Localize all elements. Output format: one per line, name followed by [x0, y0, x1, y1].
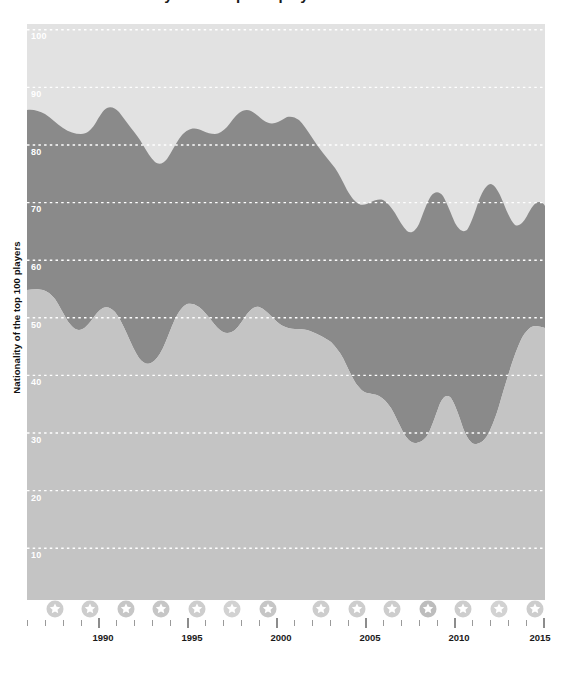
- stacked-area-chart: Nationality of the top 100 players over …: [0, 0, 570, 677]
- star-circle-icon[interactable]: [152, 600, 170, 618]
- plot-area: [27, 24, 545, 600]
- x-tick-2001: [294, 620, 295, 626]
- x-axis-label-2000: 2000: [270, 632, 291, 643]
- x-tick-2011: [472, 620, 473, 626]
- x-tick-2009: [437, 620, 438, 626]
- x-axis-label-1990: 1990: [92, 632, 113, 643]
- chart-title-clipped: Nationality of the top 100 players over …: [0, 0, 570, 14]
- star-circle-icon[interactable]: [223, 600, 241, 618]
- x-tick-1999: [259, 620, 260, 626]
- star-circle-icon[interactable]: [419, 600, 437, 618]
- star-circle-icon[interactable]: [383, 600, 401, 618]
- plot-svg: [27, 24, 545, 600]
- x-tick-2004: [348, 620, 349, 626]
- star-circle-icon[interactable]: [454, 600, 472, 618]
- x-tick-1997: [223, 620, 224, 626]
- x-tick-2007: [401, 620, 402, 626]
- x-axis-label-2005: 2005: [359, 632, 380, 643]
- x-tick-2012: [490, 620, 491, 626]
- y-axis-title: Nationality of the top 100 players: [11, 178, 22, 458]
- star-circle-icon[interactable]: [117, 600, 135, 618]
- x-tick-2000: [276, 618, 278, 628]
- x-tick-1989: [81, 620, 82, 626]
- x-tick-2003: [330, 620, 331, 626]
- x-axis: 1990 1995 2000 2005 2010 2015: [27, 600, 545, 677]
- x-tick-2006: [383, 620, 384, 626]
- star-circle-icon[interactable]: [526, 600, 544, 618]
- chart-title: Nationality of the top 100 players over …: [96, 0, 402, 3]
- x-tick-2010: [454, 618, 456, 628]
- x-tick-2013: [508, 620, 509, 626]
- x-axis-label-2010: 2010: [448, 632, 469, 643]
- star-circle-icon[interactable]: [259, 600, 277, 618]
- x-tick-2005: [365, 618, 367, 628]
- star-circle-icon[interactable]: [81, 600, 99, 618]
- x-tick-2014: [526, 620, 527, 626]
- x-tick-1998: [241, 620, 242, 626]
- x-tick-2015: [543, 618, 545, 628]
- star-circle-icon[interactable]: [188, 600, 206, 618]
- x-axis-label-2015: 2015: [529, 632, 550, 643]
- x-tick-2008: [419, 620, 420, 626]
- x-tick-1987: [45, 620, 46, 626]
- x-tick-1986: [27, 620, 28, 626]
- x-tick-1994: [170, 620, 171, 626]
- star-circle-icon[interactable]: [490, 600, 508, 618]
- x-tick-1995: [187, 618, 189, 628]
- x-axis-label-1995: 1995: [181, 632, 202, 643]
- x-tick-1990: [98, 618, 100, 628]
- x-tick-1991: [116, 620, 117, 626]
- x-tick-1993: [152, 620, 153, 626]
- star-circle-icon[interactable]: [312, 600, 330, 618]
- x-tick-1988: [63, 620, 64, 626]
- star-circle-icon[interactable]: [46, 600, 64, 618]
- star-circle-icon[interactable]: [348, 600, 366, 618]
- x-tick-2002: [312, 620, 313, 626]
- x-tick-1996: [205, 620, 206, 626]
- x-tick-1992: [134, 620, 135, 626]
